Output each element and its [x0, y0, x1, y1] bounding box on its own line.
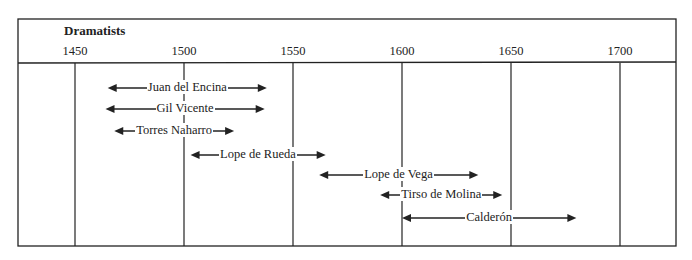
arrow-right-icon: [258, 84, 267, 92]
arrow-left-icon: [402, 214, 411, 222]
arrow-right-icon: [225, 127, 234, 135]
dramatist-label: Lope de Vega: [363, 167, 434, 181]
year-tick-label: 1550: [281, 44, 306, 59]
year-tick-label: 1600: [390, 44, 415, 59]
arrow-right-icon: [317, 151, 326, 159]
year-tick-label: 1500: [172, 44, 197, 59]
dramatist-label: Lope de Rueda: [219, 147, 297, 161]
arrow-left-icon: [319, 171, 328, 179]
diagram-title: Dramatists: [64, 23, 125, 39]
arrow-right-icon: [256, 105, 265, 113]
dramatist-label: Tirso de Molina: [400, 187, 482, 201]
arrow-left-icon: [106, 105, 115, 113]
arrow-right-icon: [567, 214, 576, 222]
arrow-left-icon: [114, 127, 123, 135]
year-tick-label: 1700: [608, 44, 633, 59]
dramatists-timeline: Dramatists 145015001550160016501700 Juan…: [0, 0, 692, 260]
dramatist-label: Gil Vicente: [156, 101, 215, 115]
arrow-right-icon: [469, 171, 478, 179]
dramatist-label: Calderón: [465, 210, 513, 224]
arrow-left-icon: [380, 191, 389, 199]
year-tick-label: 1450: [63, 44, 88, 59]
arrow-left-icon: [108, 84, 117, 92]
year-tick-label: 1650: [499, 44, 524, 59]
dramatist-label: Juan del Encina: [147, 80, 228, 94]
timeline-frame: [0, 0, 692, 260]
arrow-left-icon: [191, 151, 200, 159]
arrow-right-icon: [493, 191, 502, 199]
dramatist-label: Torres Naharro: [135, 123, 213, 137]
